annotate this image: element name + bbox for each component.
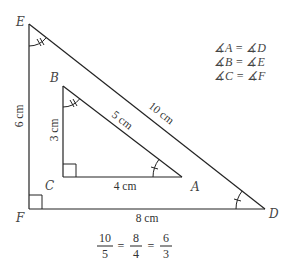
measure-ba: 5 cm: [110, 108, 135, 131]
fraction-2-numerator: 8: [133, 231, 139, 245]
vertex-label-d: D: [268, 207, 279, 221]
vertex-label-a: A: [190, 180, 200, 194]
side-ba: [63, 86, 182, 177]
right-angle-marker-c: [63, 164, 76, 177]
angle-equalities: ∡A = ∡D ∡B = ∡E ∡C = ∡F: [214, 41, 266, 83]
fraction-3-numerator: 6: [163, 231, 169, 245]
angle-tick-e-2: [40, 38, 44, 45]
angle-equality-b-e: ∡B = ∡E: [214, 55, 265, 69]
vertex-label-f: F: [15, 211, 25, 225]
triangle-abc: [63, 86, 182, 177]
fraction-1-numerator: 10: [99, 231, 111, 245]
vertex-label-e: E: [15, 15, 25, 29]
similar-triangles-diagram: E F D B C A 6 cm 3 cm 4 cm 8 cm 10 cm 5 …: [0, 0, 292, 273]
vertex-label-b: B: [49, 71, 59, 85]
angle-equality-c-f: ∡C = ∡F: [214, 69, 266, 83]
measure-ef: 6 cm: [13, 105, 25, 128]
measure-bc: 3 cm: [48, 119, 60, 142]
fraction-3-denominator: 3: [163, 247, 169, 261]
angle-equality-a-d: ∡A = ∡D: [214, 41, 266, 55]
measure-ed: 10 cm: [147, 99, 177, 126]
right-angle-marker-f: [29, 195, 42, 209]
equals-2: =: [148, 239, 155, 253]
fraction-1-denominator: 5: [102, 247, 108, 261]
equals-1: =: [118, 239, 125, 253]
vertex-label-c: C: [45, 179, 54, 193]
ratio-equation: 10 5 = 8 4 = 6 3: [97, 231, 172, 261]
measure-fd: 8 cm: [136, 212, 159, 224]
measure-ca: 4 cm: [114, 180, 137, 192]
fraction-2-denominator: 4: [133, 247, 139, 261]
